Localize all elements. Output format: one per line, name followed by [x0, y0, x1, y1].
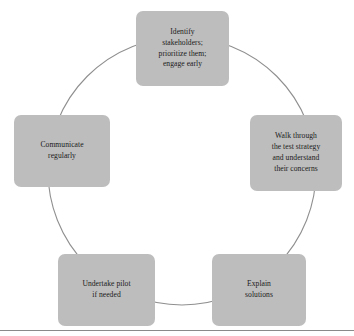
node-explain-solutions[interactable]: Explain solutions — [212, 254, 306, 326]
node-walk-through[interactable]: Walk through the test strategy and under… — [250, 115, 342, 191]
node-identify[interactable]: Identify stakeholders; prioritize them; … — [136, 11, 229, 86]
node-explain-solutions-label: Explain solutions — [242, 279, 276, 301]
cycle-diagram: Identify stakeholders; prioritize them; … — [0, 0, 354, 336]
node-identify-label: Identify stakeholders; prioritize them; … — [156, 27, 210, 70]
bottom-divider — [0, 330, 354, 331]
node-undertake-pilot[interactable]: Undertake pilot if needed — [58, 254, 155, 326]
node-communicate-regularly[interactable]: Communicate regularly — [14, 115, 110, 187]
node-undertake-pilot-label: Undertake pilot if needed — [79, 279, 133, 301]
node-walk-through-label: Walk through the test strategy and under… — [269, 131, 324, 174]
node-communicate-regularly-label: Communicate regularly — [37, 140, 86, 162]
